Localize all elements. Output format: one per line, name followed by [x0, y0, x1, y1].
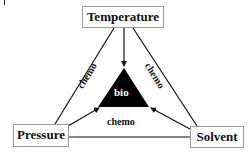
- arrow-pressure-to-bio: [68, 108, 99, 126]
- node-solvent-label: Solvent: [196, 129, 237, 144]
- arrow-solvent-to-bio: [151, 108, 190, 129]
- node-solvent: Solvent: [190, 126, 244, 148]
- edge-temperature-solvent: [133, 28, 197, 126]
- edge-label-bottom: chemo: [107, 116, 135, 127]
- node-temperature-label: Temperature: [87, 9, 159, 24]
- node-pressure-label: Pressure: [17, 127, 65, 142]
- node-pressure: Pressure: [13, 124, 69, 147]
- center-label: bio: [114, 86, 129, 98]
- node-temperature: Temperature: [82, 6, 164, 28]
